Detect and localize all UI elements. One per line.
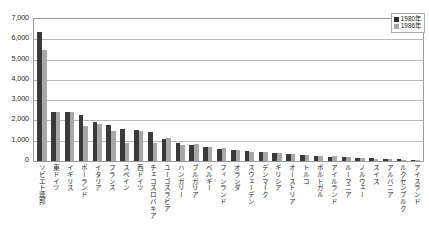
y-axis-tick-label: 4,000 <box>12 75 30 82</box>
x-axis-tick: スイス <box>367 164 381 225</box>
x-axis-tick: スペイン <box>117 164 131 225</box>
bar-1986 <box>166 138 171 161</box>
x-axis-tick: デンマーク <box>256 164 270 225</box>
x-axis-tick: イタリア <box>90 164 104 225</box>
legend-item: 1986年 <box>394 23 421 29</box>
x-axis-tick-label: アイルランド <box>329 164 336 225</box>
x-axis-tick: イギリス <box>62 164 76 225</box>
bar-1986 <box>277 153 282 161</box>
bar-group <box>270 19 284 161</box>
bar-1986 <box>56 112 61 161</box>
x-axis-tick: ソビエト連邦 <box>34 164 48 225</box>
bar-1986 <box>360 158 365 161</box>
x-axis-tick-label: ルクセンブルク <box>399 164 406 225</box>
bar-group <box>132 19 146 161</box>
bar-1986 <box>401 160 406 161</box>
bar-group <box>353 19 367 161</box>
x-axis-tick-label: ハンガリー <box>176 164 183 225</box>
bar-group <box>76 19 90 161</box>
x-axis-tick: スウェーデン <box>242 164 256 225</box>
x-axis-tick-label: オーストリア <box>288 164 295 225</box>
x-axis-tick: ルーマニア <box>340 164 354 225</box>
bar-1986 <box>291 154 296 161</box>
x-axis-tick: ブルガリア <box>187 164 201 225</box>
x-axis-tick: ベルギー <box>201 164 215 225</box>
bar-1986 <box>332 156 337 161</box>
bar-group <box>395 19 409 161</box>
x-axis-tick-label: アイスランド <box>413 164 420 225</box>
bar-1986 <box>153 143 158 161</box>
bar-group <box>49 19 63 161</box>
x-axis-tick-label: アルバニア <box>385 164 392 225</box>
bar-1986 <box>180 145 185 161</box>
bar-group <box>35 19 49 161</box>
bar-group <box>284 19 298 161</box>
bar-group <box>312 19 326 161</box>
bar-1986 <box>236 150 241 161</box>
bar-1986 <box>194 144 199 161</box>
y-axis-tick-label: 5,000 <box>12 55 30 62</box>
bar-1986 <box>388 159 393 161</box>
bar-group <box>173 19 187 161</box>
bar-group <box>187 19 201 161</box>
bar-group <box>104 19 118 161</box>
bar-group <box>63 19 77 161</box>
bar-group <box>408 19 422 161</box>
x-axis-tick: オランダ <box>228 164 242 225</box>
plot-area <box>33 18 424 162</box>
x-axis-tick-label: ポルトガル <box>315 164 322 225</box>
x-axis-tick-label: フランス <box>107 164 114 225</box>
bar-1986 <box>263 152 268 161</box>
bar-group <box>90 19 104 161</box>
bar-group <box>298 19 312 161</box>
y-axis-tick-label: 1,000 <box>12 136 30 143</box>
x-axis-tick-label: ルーマニア <box>343 164 350 225</box>
x-axis-tick: ハンガリー <box>173 164 187 225</box>
bar-1986 <box>222 148 227 161</box>
y-axis-tick-label: 7,000 <box>12 14 30 21</box>
bar-1986 <box>70 112 75 161</box>
y-axis: 7,0006,0005,0004,0003,0002,0001,0000 <box>0 0 33 168</box>
bar-1986 <box>208 147 213 161</box>
x-axis-tick-label: ポーランド <box>79 164 86 225</box>
bar-1986 <box>83 126 88 162</box>
chart-legend: 1980年1986年 <box>391 13 425 33</box>
y-axis-tick-label: 0 <box>25 156 29 163</box>
bar-group <box>118 19 132 161</box>
bar-1986 <box>111 131 116 161</box>
y-axis-tick-label: 2,000 <box>12 116 30 123</box>
bar-group <box>146 19 160 161</box>
x-axis-tick-label: デンマーク <box>260 164 267 225</box>
x-axis-tick-label: ギリシア <box>274 164 281 225</box>
legend-swatch-icon <box>394 24 399 29</box>
bar-1986 <box>97 124 102 161</box>
x-axis-tick: ルクセンブルク <box>395 164 409 225</box>
x-axis-tick-label: スイス <box>371 164 378 225</box>
x-axis-tick-label: トルコ <box>302 164 309 225</box>
bar-1986 <box>318 156 323 161</box>
y-axis-tick-label: 3,000 <box>12 96 30 103</box>
x-axis-tick: アイスランド <box>409 164 423 225</box>
x-axis-tick: ギリシア <box>270 164 284 225</box>
x-axis-tick-label: 西ドイツ <box>135 164 142 225</box>
x-axis-tick-label: ブルガリア <box>190 164 197 225</box>
x-axis-tick-label: ユーゴスラビア <box>163 164 170 225</box>
x-axis-tick-label: オランダ <box>232 164 239 225</box>
x-axis-tick: ユーゴスラビア <box>159 164 173 225</box>
x-axis-tick-label: 東ドイツ <box>51 164 58 225</box>
bar-group <box>159 19 173 161</box>
bar-group <box>339 19 353 161</box>
bar-group <box>201 19 215 161</box>
x-axis-tick: トルコ <box>298 164 312 225</box>
bar-1986 <box>374 159 379 161</box>
legend-item-label: 1986年 <box>401 23 421 29</box>
bar-1986 <box>415 160 420 161</box>
x-axis-tick-label: チェコスロバキア <box>149 164 156 225</box>
x-axis-tick: フィンランド <box>215 164 229 225</box>
x-axis-tick: チェコスロバキア <box>145 164 159 225</box>
x-axis-tick-label: ノルウェー <box>357 164 364 225</box>
bar-group <box>325 19 339 161</box>
x-axis-tick: 東ドイツ <box>48 164 62 225</box>
bar-group <box>242 19 256 161</box>
bar-1986 <box>125 143 130 161</box>
